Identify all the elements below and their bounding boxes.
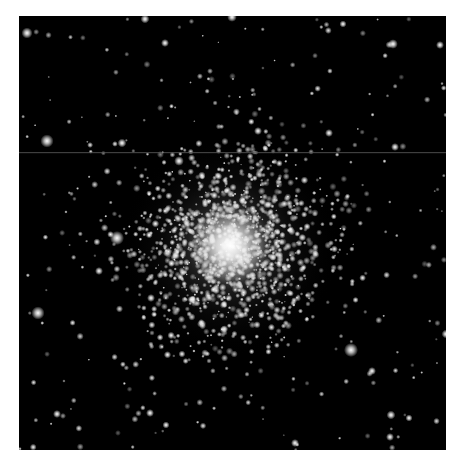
star-cluster-image: Globular star cluster: [19, 16, 446, 450]
star-field-canvas: [19, 16, 446, 450]
